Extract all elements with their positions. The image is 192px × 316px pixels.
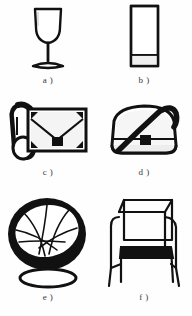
- figure-item-c: c ): [0, 95, 96, 190]
- clutch-handbag-icon: [0, 95, 96, 167]
- figure-item-f: f ): [96, 190, 192, 316]
- figure-caption-c: c ): [43, 168, 54, 177]
- pod-chair-icon: [0, 190, 96, 290]
- shoulder-bag-icon: [96, 95, 192, 167]
- figure-grid: a ) b ): [0, 0, 192, 316]
- wine-glass-icon: [0, 0, 96, 72]
- figure-item-b: b ): [96, 0, 192, 95]
- figure-caption-d: d ): [138, 168, 149, 177]
- figure-caption-e: e ): [43, 293, 54, 302]
- figure-caption-f: f ): [139, 293, 149, 302]
- tumbler-glass-icon: [96, 0, 192, 72]
- figure-item-e: e ): [0, 190, 96, 316]
- figure-item-a: a ): [0, 0, 96, 95]
- figure-caption-b: b ): [138, 76, 149, 85]
- figure-item-d: d ): [96, 95, 192, 190]
- armchair-icon: [96, 190, 192, 290]
- figure-caption-a: a ): [43, 76, 54, 85]
